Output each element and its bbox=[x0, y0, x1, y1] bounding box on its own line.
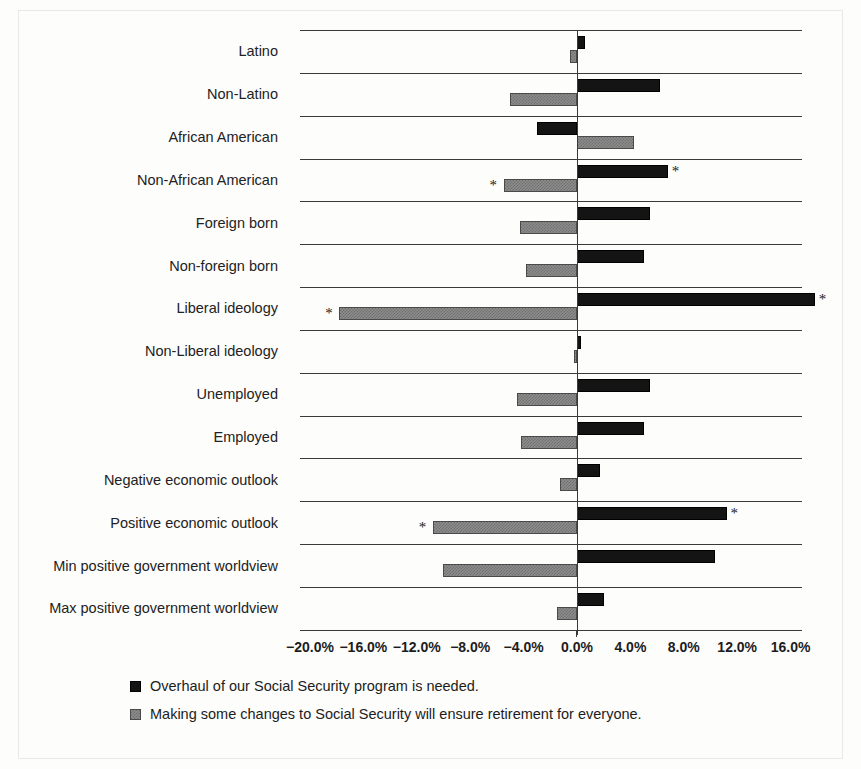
chart-legend: Overhaul of our Social Security program … bbox=[130, 672, 830, 728]
y-axis-label: Non-Latino bbox=[0, 73, 288, 116]
bar-overhaul bbox=[537, 122, 577, 135]
bar-overhaul bbox=[577, 593, 604, 606]
bar-overhaul bbox=[577, 507, 727, 520]
x-axis-tick-labels: −20.0%−16.0%−12.0%−8.0%−4.0%0.0%4.0%8.0%… bbox=[300, 639, 802, 661]
chart-row bbox=[300, 116, 802, 159]
chart-row bbox=[300, 30, 802, 73]
y-axis-label: Employed bbox=[0, 416, 288, 459]
chart-row bbox=[300, 201, 802, 244]
bar-changes bbox=[577, 136, 634, 149]
chart-row bbox=[300, 244, 802, 287]
bar-changes bbox=[520, 221, 577, 234]
bar-changes bbox=[433, 521, 577, 534]
legend-swatch-black-icon bbox=[130, 681, 141, 692]
y-axis-label: Unemployed bbox=[0, 373, 288, 416]
y-axis-label: Liberal ideology bbox=[0, 287, 288, 330]
chart-row bbox=[300, 330, 802, 373]
legend-item: Making some changes to Social Security w… bbox=[130, 700, 830, 728]
chart-row bbox=[300, 373, 802, 416]
y-axis-label: Negative economic outlook bbox=[0, 458, 288, 501]
x-axis-tick-label: −4.0% bbox=[504, 639, 544, 655]
x-axis-line bbox=[300, 630, 802, 631]
bar-changes bbox=[504, 179, 577, 192]
bar-changes bbox=[570, 50, 577, 63]
significance-marker: * bbox=[819, 292, 827, 307]
bar-changes bbox=[339, 307, 577, 320]
x-axis-tick-label: −16.0% bbox=[339, 639, 387, 655]
y-axis-label: Positive economic outlook bbox=[0, 501, 288, 544]
bar-changes bbox=[510, 93, 577, 106]
chart-row bbox=[300, 544, 802, 587]
legend-swatch-gray-icon bbox=[130, 709, 141, 720]
y-axis-label: Non-Liberal ideology bbox=[0, 330, 288, 373]
bar-overhaul bbox=[577, 207, 650, 220]
zero-reference-line bbox=[577, 30, 578, 635]
legend-label: Making some changes to Social Security w… bbox=[150, 706, 642, 722]
bar-overhaul bbox=[577, 379, 650, 392]
x-axis-tick-label: 4.0% bbox=[614, 639, 646, 655]
bar-overhaul bbox=[577, 250, 644, 263]
chart-row: ** bbox=[300, 159, 802, 202]
significance-marker: * bbox=[731, 506, 739, 521]
bar-changes bbox=[521, 436, 577, 449]
bar-overhaul bbox=[577, 422, 644, 435]
y-axis-label: Foreign born bbox=[0, 201, 288, 244]
chart-figure: Latino Non-Latino African American Non-A… bbox=[0, 0, 861, 769]
chart-row bbox=[300, 458, 802, 501]
y-axis-label: Latino bbox=[0, 30, 288, 73]
bar-overhaul bbox=[577, 550, 715, 563]
y-axis-label: African American bbox=[0, 116, 288, 159]
significance-marker: * bbox=[490, 178, 498, 193]
chart-row bbox=[300, 73, 802, 116]
x-axis-tick-label: 12.0% bbox=[717, 639, 757, 655]
bar-changes bbox=[560, 478, 577, 491]
bar-changes bbox=[526, 264, 577, 277]
y-axis-label: Min positive government worldview bbox=[0, 544, 288, 587]
significance-marker: * bbox=[325, 306, 333, 321]
x-axis-tick-label: −8.0% bbox=[450, 639, 490, 655]
bar-overhaul bbox=[577, 79, 660, 92]
chart-row bbox=[300, 587, 802, 630]
bar-changes bbox=[517, 393, 577, 406]
x-axis-tick-label: 8.0% bbox=[668, 639, 700, 655]
bar-overhaul bbox=[577, 165, 668, 178]
bar-changes bbox=[443, 564, 577, 577]
y-axis-category-labels: Latino Non-Latino African American Non-A… bbox=[0, 30, 288, 630]
bar-overhaul bbox=[577, 293, 815, 306]
x-axis-tick-label: 0.0% bbox=[561, 639, 593, 655]
chart-row: ** bbox=[300, 287, 802, 330]
y-axis-label: Max positive government worldview bbox=[0, 587, 288, 630]
plot-area: ****** bbox=[300, 30, 802, 630]
chart-row bbox=[300, 416, 802, 459]
zero-axis-tick bbox=[576, 630, 577, 637]
y-axis-label: Non-foreign born bbox=[0, 244, 288, 287]
significance-marker: * bbox=[419, 520, 427, 535]
x-axis-tick-label: −20.0% bbox=[286, 639, 334, 655]
x-axis-tick-label: −12.0% bbox=[393, 639, 441, 655]
bar-overhaul bbox=[577, 464, 600, 477]
bar-changes bbox=[557, 607, 577, 620]
chart-row: ** bbox=[300, 501, 802, 544]
legend-item: Overhaul of our Social Security program … bbox=[130, 672, 830, 700]
legend-label: Overhaul of our Social Security program … bbox=[150, 678, 479, 694]
x-axis-tick-label: 16.0% bbox=[771, 639, 811, 655]
y-axis-label: Non-African American bbox=[0, 159, 288, 202]
significance-marker: * bbox=[672, 164, 680, 179]
